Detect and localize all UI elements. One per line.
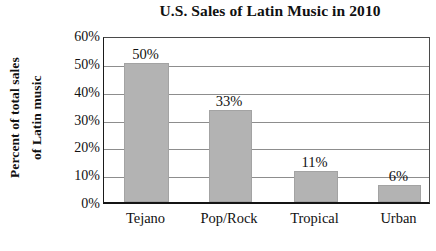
category-label: Urban bbox=[344, 210, 436, 227]
bar-value-label: 11% bbox=[275, 155, 355, 170]
bar bbox=[209, 110, 252, 202]
y-axis-tick-label: 60% bbox=[54, 30, 100, 44]
bar bbox=[294, 171, 338, 202]
y-axis-tick-label: 50% bbox=[54, 58, 100, 72]
bar-value-label: 33% bbox=[189, 94, 269, 109]
y-axis-title: Percent of total sales of Latin music bbox=[0, 28, 52, 208]
y-axis-tick-label: 30% bbox=[54, 114, 100, 128]
y-axis-tick-label: 40% bbox=[54, 86, 100, 100]
y-axis-title-line-2: of Latin music bbox=[26, 28, 48, 208]
bar-chart-figure: U.S. Sales of Latin Music in 2010 Percen… bbox=[0, 0, 436, 251]
bar bbox=[378, 185, 421, 202]
chart-title: U.S. Sales of Latin Music in 2010 bbox=[108, 1, 432, 21]
y-axis-tick-label: 0% bbox=[54, 197, 100, 211]
y-axis-tick-label: 10% bbox=[54, 169, 100, 183]
y-axis-title-line-1: Percent of total sales bbox=[4, 28, 26, 208]
bar-value-label: 50% bbox=[106, 47, 186, 62]
bar-value-label: 6% bbox=[359, 169, 436, 184]
y-axis-tick-label: 20% bbox=[54, 141, 100, 155]
bar bbox=[124, 63, 169, 202]
